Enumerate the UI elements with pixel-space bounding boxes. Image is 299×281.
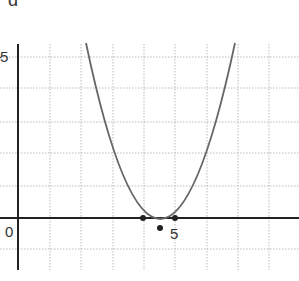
chart-plot	[0, 0, 299, 281]
grid	[0, 44, 299, 270]
x-tick-5: 5	[170, 225, 178, 242]
axes	[0, 44, 299, 270]
origin-label: 0	[5, 223, 13, 240]
y-tick-minus: -	[0, 48, 2, 65]
parabola-curve	[86, 43, 235, 219]
